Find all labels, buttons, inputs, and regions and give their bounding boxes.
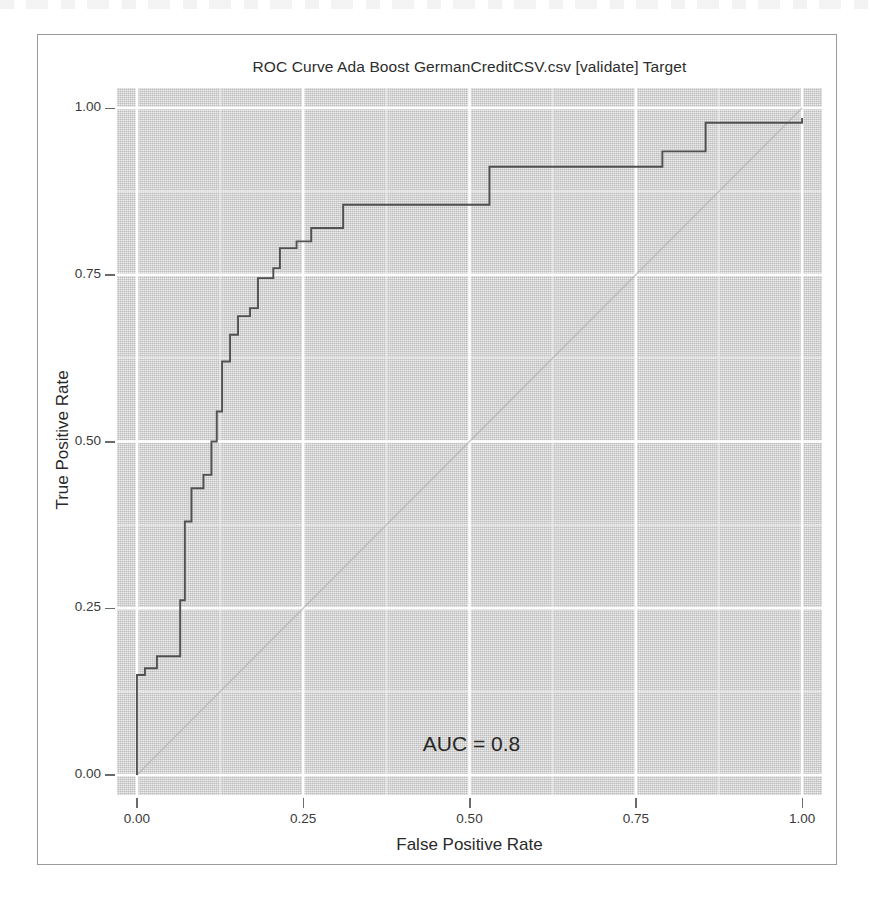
x-axis-title: False Positive Rate — [117, 835, 822, 855]
x-tick-label: 0.25 — [273, 811, 333, 826]
x-tick-mark — [136, 798, 138, 808]
roc-curve-chart: ROC Curve Ada Boost GermanCreditCSV.csv … — [0, 0, 870, 898]
x-tick-mark — [635, 798, 637, 808]
plot-series-layer — [117, 88, 822, 795]
x-tick-mark — [469, 798, 471, 808]
x-tick-label: 1.00 — [772, 811, 832, 826]
y-tick-label: 0.75 — [49, 266, 101, 281]
x-tick-label: 0.75 — [606, 811, 666, 826]
plot-panel — [117, 88, 822, 795]
y-axis-title: True Positive Rate — [53, 330, 73, 550]
x-tick-label: 0.50 — [440, 811, 500, 826]
y-tick-mark — [105, 274, 115, 276]
y-tick-mark — [105, 608, 115, 610]
y-tick-label: 0.00 — [49, 766, 101, 781]
y-tick-mark — [105, 108, 115, 110]
x-tick-label: 0.00 — [107, 811, 167, 826]
auc-annotation: AUC = 0.8 — [423, 732, 520, 756]
y-tick-mark — [105, 441, 115, 443]
y-tick-mark — [105, 774, 115, 776]
y-tick-label: 0.25 — [49, 599, 101, 614]
x-tick-mark — [802, 798, 804, 808]
x-tick-mark — [303, 798, 305, 808]
chart-title: ROC Curve Ada Boost GermanCreditCSV.csv … — [117, 58, 822, 76]
y-tick-label: 1.00 — [49, 99, 101, 114]
